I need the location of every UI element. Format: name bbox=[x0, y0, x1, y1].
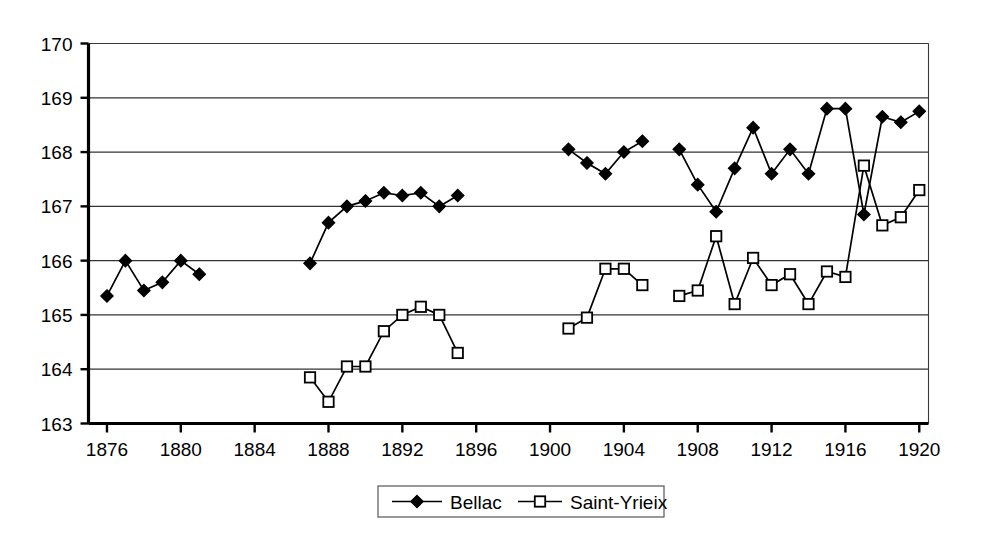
marker-open-square bbox=[342, 361, 352, 371]
marker-open-square bbox=[729, 299, 739, 309]
x-tick-label-1904: 1904 bbox=[603, 439, 646, 460]
marker-open-square bbox=[766, 280, 776, 290]
y-tick-label-163: 163 bbox=[41, 414, 73, 435]
marker-open-square bbox=[600, 264, 610, 274]
marker-open-square bbox=[840, 272, 850, 282]
chart-canvas: 163164165166167168169170 187618801884188… bbox=[0, 0, 992, 541]
x-tick-label-1912: 1912 bbox=[750, 439, 792, 460]
y-tick-label-170: 170 bbox=[41, 34, 73, 55]
marker-open-square bbox=[360, 361, 370, 371]
y-tick-label-169: 169 bbox=[41, 88, 73, 109]
x-tick-label-1888: 1888 bbox=[307, 439, 349, 460]
marker-open-square bbox=[693, 285, 703, 295]
y-tick-label-164: 164 bbox=[41, 359, 73, 380]
y-tick-label-167: 167 bbox=[41, 196, 73, 217]
x-tick-label-1900: 1900 bbox=[529, 439, 571, 460]
marker-open-square bbox=[619, 264, 629, 274]
marker-open-square bbox=[674, 291, 684, 301]
line-chart: 163164165166167168169170 187618801884188… bbox=[0, 0, 992, 541]
marker-open-square bbox=[896, 212, 906, 222]
marker-open-square bbox=[323, 397, 333, 407]
marker-open-square bbox=[305, 372, 315, 382]
marker-open-square bbox=[711, 231, 721, 241]
y-tick-label-166: 166 bbox=[41, 251, 73, 272]
marker-open-square bbox=[914, 185, 924, 195]
y-tick-label-168: 168 bbox=[41, 142, 73, 163]
marker-open-square bbox=[785, 269, 795, 279]
marker-open-square bbox=[535, 496, 545, 506]
marker-open-square bbox=[859, 160, 869, 170]
marker-open-square bbox=[877, 220, 887, 230]
marker-open-square bbox=[416, 302, 426, 312]
marker-open-square bbox=[748, 253, 758, 263]
chart-background bbox=[0, 0, 992, 541]
marker-open-square bbox=[379, 326, 389, 336]
marker-open-square bbox=[637, 280, 647, 290]
x-tick-label-1892: 1892 bbox=[381, 439, 423, 460]
marker-open-square bbox=[803, 299, 813, 309]
x-tick-label-1880: 1880 bbox=[160, 439, 202, 460]
x-tick-label-1896: 1896 bbox=[455, 439, 497, 460]
x-tick-label-1884: 1884 bbox=[234, 439, 277, 460]
marker-open-square bbox=[453, 348, 463, 358]
marker-open-square bbox=[822, 266, 832, 276]
x-tick-label-1920: 1920 bbox=[898, 439, 940, 460]
marker-open-square bbox=[434, 310, 444, 320]
legend-label-saint-yrieix: Saint-Yrieix bbox=[570, 492, 668, 513]
marker-open-square bbox=[563, 323, 573, 333]
marker-open-square bbox=[397, 310, 407, 320]
y-tick-label-165: 165 bbox=[41, 305, 73, 326]
legend-label-bellac: Bellac bbox=[450, 492, 502, 513]
x-tick-label-1876: 1876 bbox=[86, 439, 128, 460]
chart-legend[interactable]: BellacSaint-Yrieix bbox=[378, 486, 668, 517]
x-tick-label-1908: 1908 bbox=[677, 439, 719, 460]
marker-open-square bbox=[582, 312, 592, 322]
x-tick-label-1916: 1916 bbox=[824, 439, 866, 460]
